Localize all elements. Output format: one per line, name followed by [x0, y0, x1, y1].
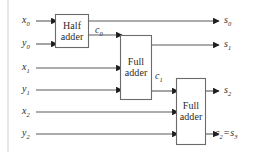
input-label-x0: x0	[22, 15, 30, 25]
input-label-x2-sub: 2	[26, 111, 29, 118]
full-adder-2-label: Full adder	[176, 100, 206, 122]
input-label-y0: y0	[22, 38, 30, 48]
full-adder-2-label-line2: adder	[176, 111, 206, 122]
input-label-x2: x2	[22, 106, 30, 116]
input-label-y1-sub: 1	[26, 89, 29, 96]
internal-label-c0-sub: 0	[99, 30, 102, 37]
input-label-y2: y2	[22, 128, 30, 138]
half-adder-label: Half adder	[55, 20, 89, 42]
internal-label-c1: c1	[155, 71, 163, 81]
full-adder-1-label: Full adder	[120, 56, 152, 78]
input-label-x1-sub: 1	[26, 67, 29, 74]
circuit-diagram: Half adder Full adder Full adder x0 y0 x…	[0, 0, 265, 152]
input-label-x1: x1	[22, 62, 30, 72]
output-label-s0-sub: 0	[228, 20, 231, 27]
output-label-s1-sub: 1	[228, 44, 231, 51]
output-label-s2: s2	[224, 85, 231, 95]
half-adder-label-line2: adder	[55, 31, 89, 42]
input-label-y0-sub: 0	[26, 43, 29, 50]
output-label-s3-sub: 3	[234, 133, 237, 140]
full-adder-1-label-line2: adder	[120, 67, 152, 78]
full-adder-1-label-line1: Full	[120, 56, 152, 67]
output-label-s1: s1	[224, 39, 231, 49]
internal-label-c1-sub: 1	[159, 76, 162, 83]
full-adder-2-label-line1: Full	[176, 100, 206, 111]
internal-label-c0: c0	[95, 25, 103, 35]
input-label-x0-sub: 0	[26, 20, 29, 27]
input-label-y1: y1	[22, 84, 30, 94]
output-label-s2-sub: 2	[228, 90, 231, 97]
half-adder-label-line1: Half	[55, 20, 89, 31]
output-label-s0: s0	[224, 15, 231, 25]
output-label-c2-equals-s3: c2=s3	[215, 128, 238, 138]
input-label-y2-sub: 2	[26, 133, 29, 140]
